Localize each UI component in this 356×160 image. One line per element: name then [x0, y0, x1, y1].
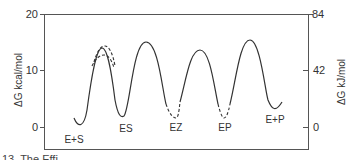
energy-curve-solid-2	[180, 50, 218, 104]
left-axis: 20 10 0 ΔG kcal/mol	[13, 8, 45, 133]
state-label-e-plus-p: E+P	[265, 114, 285, 125]
right-axis-title: ΔG kJ/mol	[336, 59, 347, 105]
left-tick-20: 20	[26, 8, 38, 20]
right-tick-84: 84	[312, 8, 324, 20]
right-tick-42: 42	[313, 64, 325, 76]
right-tick-0: 0	[313, 121, 319, 133]
right-axis: 84 42 0 ΔG kJ/mol	[303, 8, 347, 133]
state-label-e-plus-s: E+S	[64, 134, 84, 145]
energy-curve-dashed-ep	[218, 104, 230, 118]
energy-curve-dashed-ez	[166, 102, 180, 118]
left-axis-title: ΔG kcal/mol	[13, 53, 24, 107]
energy-curve-solid	[74, 42, 166, 125]
state-label-ep: EP	[218, 122, 232, 133]
figure-caption: 13. The Effi...	[2, 153, 67, 160]
left-tick-0: 0	[32, 121, 38, 133]
state-label-ez: EZ	[170, 122, 183, 133]
energy-profile-chart: 20 10 0 ΔG kcal/mol 84 42 0 ΔG kJ/mol E+…	[0, 0, 356, 160]
state-label-es: ES	[119, 123, 133, 134]
left-tick-10: 10	[26, 64, 38, 76]
energy-curve-solid-3	[230, 40, 282, 109]
